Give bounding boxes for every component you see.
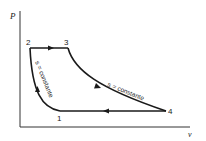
arrow-2-3-icon: [48, 46, 54, 51]
arrow-4-1-icon: [103, 109, 109, 114]
process-3-4: [68, 48, 166, 111]
point-3-label: 3: [64, 38, 69, 47]
isentropic-expansion-label: s = constante: [107, 80, 146, 101]
pv-diagram: P v 2 3 4 1 s = constante s = constante: [0, 0, 206, 141]
point-4-label: 4: [168, 107, 173, 116]
y-axis-label: P: [9, 11, 16, 21]
point-2-label: 2: [26, 38, 31, 47]
x-axis-label: v: [188, 130, 192, 139]
point-1-label: 1: [57, 114, 62, 123]
